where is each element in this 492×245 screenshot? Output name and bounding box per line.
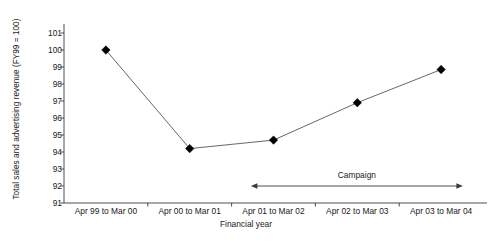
campaign-arrow-head-left xyxy=(251,183,258,188)
x-axis-tick-label: Apr 03 to Mar 04 xyxy=(410,206,472,216)
x-axis-tick-label: Apr 02 to Mar 03 xyxy=(326,206,388,216)
x-axis-tick-label: Apr 99 to Mar 00 xyxy=(75,206,137,216)
x-axis-tick-label: Apr 01 to Mar 02 xyxy=(242,206,304,216)
data-point-marker xyxy=(269,136,277,144)
x-axis-title: Financial year xyxy=(0,219,492,229)
campaign-annotation-label: Campaign xyxy=(338,170,376,180)
data-point-marker xyxy=(437,65,445,73)
data-series-line xyxy=(106,50,441,149)
x-axis-tick-label: Apr 00 to Mar 01 xyxy=(158,206,220,216)
data-point-marker xyxy=(353,99,361,107)
line-chart: Total sales and advertising revenue (FY9… xyxy=(0,0,492,245)
campaign-arrow-head-right xyxy=(456,183,463,188)
